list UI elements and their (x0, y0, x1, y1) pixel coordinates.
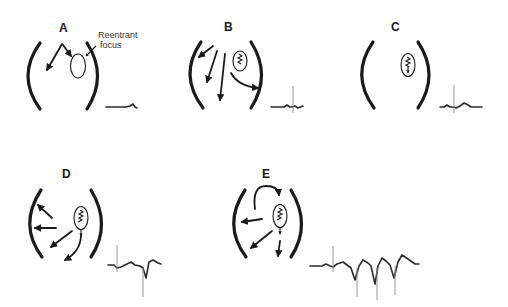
annotation-focus: focus (100, 40, 122, 50)
panel-d: D (30, 167, 161, 297)
activation-arrow-icon (242, 219, 262, 222)
right-ventricle-wall (291, 190, 302, 257)
right-ventricle-wall (251, 42, 262, 108)
ecg-trace-b (271, 105, 303, 108)
activation-arrow-icon (220, 54, 225, 100)
left-ventricle-wall (28, 43, 40, 109)
activation-arrow-icon (65, 236, 81, 260)
retrograde-arrow-icon (254, 186, 279, 209)
diagram-canvas: A Reentrant focus B C D (0, 0, 508, 307)
panel-e: E (234, 167, 419, 300)
reentrant-focus-icon (273, 205, 287, 228)
panel-label-e: E (262, 167, 270, 181)
activation-arrow-icon (199, 46, 213, 57)
activation-arrow-icon (63, 45, 71, 56)
left-ventricle-wall (30, 190, 42, 257)
panel-b: B (190, 20, 303, 113)
annotation-reentrant: Reentrant (98, 30, 138, 40)
reentry-circuit-icon (238, 54, 242, 64)
ecg-trace-c (440, 103, 482, 108)
right-ventricle-wall (91, 190, 102, 257)
reentry-circuit-icon (277, 208, 282, 220)
activation-arrow-icon (278, 241, 280, 256)
activation-arrow-icon (251, 231, 272, 248)
activation-arrow-icon (38, 205, 52, 218)
reentry-circuit-icon (406, 57, 410, 67)
panel-label-c: C (391, 20, 400, 34)
activation-arrow-icon (231, 73, 258, 88)
activation-arrow-icon (51, 231, 72, 247)
right-ventricle-wall (418, 42, 429, 108)
ecg-trace-d (108, 260, 161, 278)
left-ventricle-wall (362, 42, 374, 108)
reentrant-focus-icon (401, 54, 415, 77)
panel-label-b: B (224, 20, 233, 34)
panel-label-a: A (59, 21, 68, 35)
ecg-trace-a (106, 104, 137, 108)
reentry-circuit-icon (78, 210, 83, 222)
panel-a: A Reentrant focus (28, 21, 138, 109)
panel-label-d: D (62, 167, 71, 181)
activation-arrow-icon (47, 44, 62, 70)
activation-arrow-icon (207, 51, 217, 82)
ecg-trace-e (310, 255, 419, 284)
panel-c: C (362, 20, 482, 113)
reentrant-focus-icon (74, 207, 88, 230)
left-ventricle-wall (234, 190, 246, 257)
left-ventricle-wall (190, 42, 203, 108)
reentrant-focus-icon (71, 54, 86, 78)
